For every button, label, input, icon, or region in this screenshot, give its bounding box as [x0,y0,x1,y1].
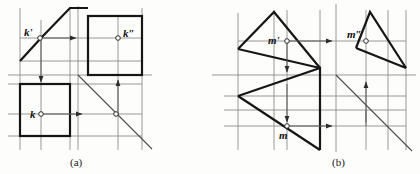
label-m: m [279,129,288,141]
figure-a: k' k″ k (a) [0,0,210,174]
caption-b: (b) [332,156,345,169]
construction-lines-b [212,4,416,152]
marker-m-double [364,39,369,44]
label-m-double: m″ [347,28,362,40]
marker-k-double [116,36,121,41]
top-view-rectangle [20,84,70,136]
marker-k-miter [114,112,119,117]
label-k-double: k″ [123,27,135,39]
marker-m-prime [285,39,290,44]
marker-k-prime [38,36,43,41]
miter-line-b [336,75,412,151]
figure-b: m' m″ m (b) [210,0,420,174]
marker-m [285,124,290,129]
projection-arrows-b [287,41,366,126]
label-k-prime: k' [24,26,33,38]
figure-sheet: k' k″ k (a) [0,0,420,174]
point-markers-b [285,39,369,129]
caption-a: (a) [70,156,83,169]
label-m-prime: m' [268,34,280,46]
side-view-square [88,16,142,75]
label-k: k [30,108,36,120]
marker-k [39,112,44,117]
